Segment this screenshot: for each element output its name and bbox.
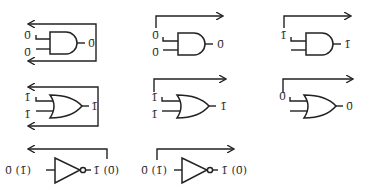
not-gate-icon — [55, 158, 80, 183]
not-gate-forward: 0̄ (1̄) 1̄ (0̄) — [141, 149, 247, 183]
input-label: 0̄ — [152, 46, 159, 59]
input-label: 0̄ (1̄) — [5, 164, 31, 177]
not-gate-icon — [182, 158, 207, 183]
forward-arrow — [154, 79, 225, 92]
forward-arrow — [157, 149, 233, 160]
output-label: 1̄ (0̄) — [221, 164, 247, 177]
forward-arrow — [283, 79, 352, 92]
input-label: 0̄ (1̄) — [141, 164, 167, 177]
input-label: 1̄ — [280, 29, 287, 42]
or-gate-icon — [177, 95, 209, 118]
forward-arrow — [156, 16, 222, 28]
or-gate-forward-one: 1̄ 1̄ 1̄ — [151, 79, 227, 121]
or-gate-forward-zero: 0̄ 0̄ — [279, 79, 353, 118]
inversion-bubble-icon — [207, 167, 212, 172]
input-label: 0̄ — [279, 90, 286, 103]
inversion-bubble-icon — [80, 167, 85, 172]
input-label: 1̄ — [151, 91, 158, 104]
logic-gate-diagram: 0̄ 0̄ 0̄ 0̄ 0̄ 0̄ 1̄ 1̄ 1̄ 1̄ 1̄ — [0, 0, 373, 194]
output-label: 1̄ — [220, 100, 227, 113]
and-gate-icon — [178, 33, 205, 55]
and-gate-forward-one: 1̄ 1̄ — [280, 16, 351, 55]
or-gate-feedback: 1̄ 1̄ 1̄ — [24, 87, 98, 126]
input-label: 0̄ — [24, 46, 31, 59]
output-label: 1̄ — [344, 38, 351, 51]
and-gate-feedback: 0̄ 0̄ 0̄ — [24, 24, 96, 61]
output-label: 0̄ — [346, 100, 353, 113]
or-gate-icon — [304, 95, 336, 118]
forward-arrow — [284, 16, 350, 28]
input-label: 0̄ — [24, 29, 31, 42]
or-gate-icon — [50, 95, 82, 118]
output-label: 1̄ (0̄) — [93, 164, 119, 177]
feedback-arrow — [29, 149, 107, 159]
input-label: 1̄ — [24, 91, 31, 104]
output-label: 0̄ — [217, 38, 224, 51]
input-label: 0̄ — [152, 29, 159, 42]
input-label: 1̄ — [151, 108, 158, 121]
output-label: 0̄ — [88, 37, 95, 50]
and-gate-icon — [50, 32, 77, 54]
not-gate-feedback: 0̄ (1̄) 1̄ (0̄) — [5, 149, 119, 183]
input-label: 1̄ — [24, 108, 31, 121]
and-gate-icon — [306, 33, 333, 55]
output-label: 1̄ — [91, 100, 98, 113]
and-gate-forward-zero: 0̄ 0̄ 0̄ — [152, 16, 224, 59]
